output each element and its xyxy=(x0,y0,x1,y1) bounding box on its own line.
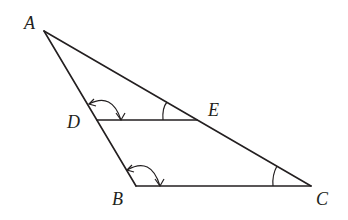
angle-mark-e xyxy=(163,102,167,120)
label-a: A xyxy=(24,14,35,32)
angle-mark-b xyxy=(127,165,164,186)
segment-ac xyxy=(44,31,311,186)
label-d: D xyxy=(67,113,80,131)
angle-mark-c xyxy=(273,166,277,186)
label-b: B xyxy=(112,190,123,208)
label-e: E xyxy=(208,101,219,119)
label-c: C xyxy=(316,190,328,208)
segment-ab xyxy=(44,31,136,186)
triangle-diagram xyxy=(0,0,348,220)
